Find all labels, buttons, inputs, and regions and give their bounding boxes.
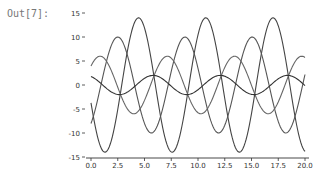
y-tick-label: 5 xyxy=(76,58,80,66)
y-axis: 151050-5-10-15 xyxy=(69,10,85,162)
plot-lines xyxy=(91,18,305,152)
y-tick-label: 0 xyxy=(76,82,80,90)
x-tick-label: 15.0 xyxy=(244,162,260,170)
y-tick-label: 10 xyxy=(71,34,80,42)
y-tick-label: -5 xyxy=(73,106,80,114)
x-tick-label: 0.0 xyxy=(85,162,96,170)
x-tick-label: 5.0 xyxy=(139,162,150,170)
x-tick-label: 17.5 xyxy=(270,162,286,170)
x-tick-label: 20.0 xyxy=(297,162,313,170)
y-tick-label: 15 xyxy=(71,10,80,18)
x-axis: 0.02.55.07.510.012.515.017.520.0 xyxy=(85,158,312,170)
x-tick-label: 2.5 xyxy=(112,162,123,170)
series-line xyxy=(91,56,305,114)
x-tick-label: 12.5 xyxy=(217,162,233,170)
x-tick-label: 10.0 xyxy=(190,162,206,170)
series-line xyxy=(91,37,305,133)
series-line xyxy=(91,18,305,152)
x-tick-label: 7.5 xyxy=(166,162,177,170)
y-tick-label: -10 xyxy=(69,130,80,138)
y-tick-label: -15 xyxy=(69,154,80,162)
line-chart: 151050-5-10-15 0.02.55.07.510.012.515.01… xyxy=(0,0,314,172)
